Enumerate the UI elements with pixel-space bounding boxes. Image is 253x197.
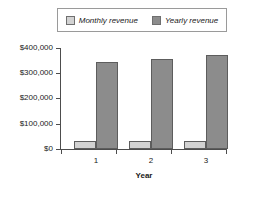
x-tick-label-3: 3: [204, 156, 208, 165]
legend-swatch-monthly-icon: [66, 16, 75, 25]
plot-area: $400,000 $300,000 $200,000 $100,000 $0: [0, 40, 253, 160]
chart-legend: Monthly revenue Yearly revenue: [57, 8, 227, 32]
x-axis-tick-labels: 1 2 3: [61, 156, 227, 168]
y-tick-label-200000: $200,000: [20, 94, 53, 102]
bar-group-year-2: [129, 48, 173, 149]
y-tick-label-100000: $100,000: [20, 120, 53, 128]
bar-yearly-year-3: [206, 55, 228, 149]
y-axis-tick-labels: $400,000 $300,000 $200,000 $100,000 $0: [0, 40, 56, 150]
legend-label-yearly: Yearly revenue: [165, 16, 218, 25]
y-tick-label-400000: $400,000: [20, 44, 53, 52]
y-tick-label-0: $0: [44, 145, 53, 153]
bar-group-year-3: [184, 48, 228, 149]
x-tick-label-1: 1: [94, 156, 98, 165]
x-tick-mark-1: [116, 150, 117, 154]
bars-container: [61, 48, 227, 149]
y-tick-label-300000: $300,000: [20, 69, 53, 77]
legend-entry-yearly-revenue: Yearly revenue: [152, 16, 218, 25]
bar-yearly-year-1: [96, 62, 118, 149]
bar-monthly-year-3: [184, 141, 206, 149]
legend-swatch-yearly-icon: [152, 16, 161, 25]
x-tick-mark-2: [171, 150, 172, 154]
bar-monthly-year-1: [74, 141, 96, 149]
x-axis-line: [60, 149, 227, 150]
x-tick-label-2: 2: [149, 156, 153, 165]
x-axis-title: Year: [61, 171, 227, 180]
bar-monthly-year-2: [129, 141, 151, 149]
bar-yearly-year-2: [151, 59, 173, 149]
x-tick-mark-end: [226, 150, 227, 154]
legend-entry-monthly-revenue: Monthly revenue: [66, 16, 138, 25]
x-tick-mark-start: [61, 150, 62, 154]
legend-label-monthly: Monthly revenue: [79, 16, 138, 25]
revenue-bar-chart: Monthly revenue Yearly revenue $400,000 …: [0, 0, 253, 197]
bar-group-year-1: [74, 48, 118, 149]
